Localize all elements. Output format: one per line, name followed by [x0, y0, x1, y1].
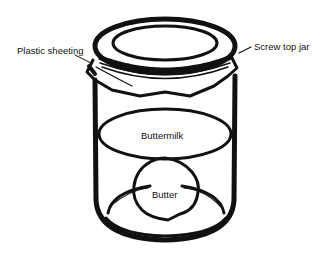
screw-top-jar-label: Screw top jar: [254, 42, 309, 52]
butter-label: Butter: [152, 190, 177, 200]
plastic-sheeting-leader: [75, 55, 91, 63]
jar-diagram: Plastic sheeting Screw top jar Buttermil…: [0, 0, 330, 256]
jar-drawing: [0, 0, 330, 256]
buttermilk-label: Buttermilk: [141, 131, 183, 141]
screw-top-jar-leader: [239, 47, 251, 53]
lid: [95, 19, 235, 79]
plastic-sheeting-label: Plastic sheeting: [17, 46, 84, 56]
